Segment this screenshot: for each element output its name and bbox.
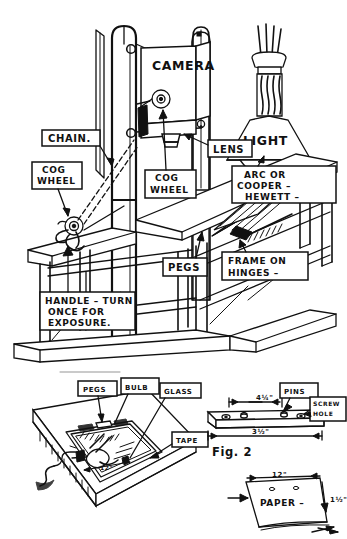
label-paper-side: 1½" — [330, 496, 347, 504]
dimension-inner-span: 4¼" — [229, 394, 282, 407]
label-screw-hole-line2: HOLE — [313, 410, 333, 417]
callout-screw-hole: SCREW HOLE — [304, 397, 346, 421]
label-handle-line2: ONCE FOR — [48, 307, 105, 317]
label-cog-wheel-camera-line2: WHEEL — [150, 185, 189, 195]
dimension-total-span: 3½" — [208, 428, 322, 440]
label-chain: CHAIN. — [48, 133, 91, 144]
label-paper: PAPER – — [260, 498, 304, 508]
line-drawing-canvas: CAMERA LIGHT — [0, 0, 347, 539]
label-camera: CAMERA — [152, 58, 215, 73]
label-frame-line1: FRAME ON — [228, 256, 286, 266]
label-handle-line3: EXPOSURE. — [48, 318, 111, 328]
callout-frame-hinges: FRAME ON HINGES – — [222, 240, 308, 280]
label-frame-line2: HINGES – — [228, 268, 279, 278]
caption-fig2: Fig. 2 — [212, 445, 252, 459]
label-inner-width: 12" — [100, 464, 113, 471]
label-cog-wheel-left-line1: COG — [42, 165, 65, 175]
label-pegs-board: PEGS — [83, 386, 106, 394]
post-collars — [127, 45, 136, 138]
callout-cog-wheel-left: COG WHEEL — [32, 162, 82, 216]
label-cog-wheel-camera-line1: COG — [155, 173, 178, 183]
illustration-sheet: CAMERA LIGHT — [0, 0, 347, 539]
label-pegs-bench: PEGS — [168, 262, 200, 273]
label-screw-hole-line1: SCREW — [313, 400, 340, 407]
label-arc-line3: HEWETT – — [245, 192, 300, 202]
label-paper-width: 12" — [272, 471, 287, 479]
label-inner-span: 4¼" — [256, 394, 274, 402]
label-cog-wheel-left-line2: WHEEL — [37, 176, 76, 186]
label-bulb: BULB — [125, 384, 148, 392]
label-tape: TAPE — [176, 437, 198, 445]
paper-diagram: 12" 1½" PAPER – — [228, 471, 347, 534]
label-lens: LENS — [213, 144, 244, 155]
label-total-span: 3½" — [252, 428, 270, 436]
label-arc-line2: COOPER – — [237, 181, 291, 191]
label-pins: PINS — [284, 388, 305, 396]
printing-board-diagram: 12" — [33, 390, 196, 506]
pin-strip-diagram: 4¼" 3½" PINS SCREW HOLE Fig. 2 — [208, 383, 346, 459]
label-handle-line1: HANDLE – TURN — [45, 296, 133, 306]
label-glass: GLASS — [164, 388, 192, 396]
callout-chain: CHAIN. — [42, 130, 114, 166]
label-arc-line1: ARC OR — [244, 170, 286, 180]
dimension-paper-side: 1½" — [321, 482, 347, 512]
